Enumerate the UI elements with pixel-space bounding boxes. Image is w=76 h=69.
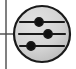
slider-knob-icon[interactable] [35,18,43,26]
settings-sliders-icon[interactable] [0,0,76,69]
slider-knob-icon[interactable] [27,42,35,50]
slider-knob-icon[interactable] [44,30,52,38]
icon-canvas: Circular icon containing three horizonta… [0,0,76,69]
